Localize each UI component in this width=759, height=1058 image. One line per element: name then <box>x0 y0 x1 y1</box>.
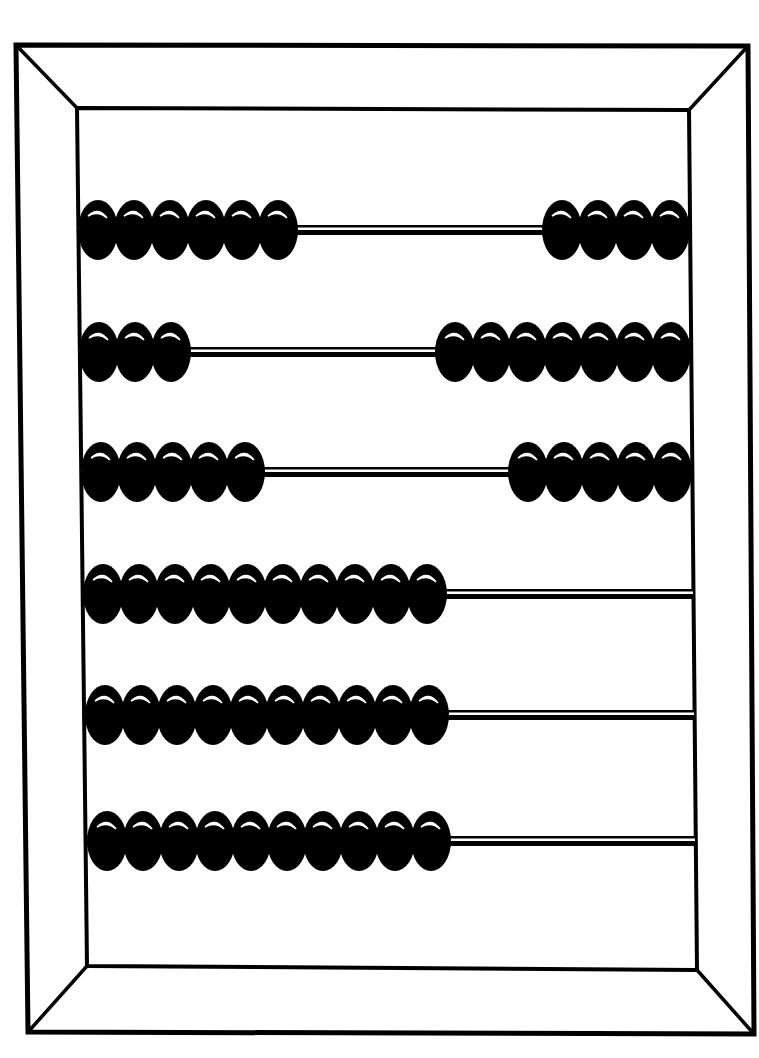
bead <box>153 442 193 502</box>
bead <box>339 811 379 871</box>
bead-left <box>87 811 127 871</box>
frame-corner-bevel <box>28 966 87 1032</box>
bead <box>117 442 157 502</box>
bead-left <box>81 442 121 502</box>
bead <box>225 442 265 502</box>
bead <box>189 442 229 502</box>
bead <box>258 200 298 260</box>
bead <box>267 811 307 871</box>
bead-left <box>375 811 415 871</box>
bead-left <box>114 200 154 260</box>
bead-right <box>650 200 690 260</box>
bead <box>651 322 691 382</box>
bead <box>121 685 161 745</box>
bead-left <box>159 811 199 871</box>
bead-right <box>615 322 655 382</box>
bead-left <box>193 685 233 745</box>
abacus-row-4 <box>83 564 693 624</box>
bead <box>407 564 447 624</box>
bead-left <box>299 564 339 624</box>
bead-left <box>78 200 118 260</box>
bead-left <box>265 685 305 745</box>
bead-left <box>153 442 193 502</box>
bead-left <box>83 564 123 624</box>
bead-right <box>652 442 692 502</box>
bead-right <box>614 200 654 260</box>
bead-left <box>150 200 190 260</box>
bead <box>471 322 511 382</box>
bead <box>615 322 655 382</box>
bead <box>507 322 547 382</box>
bead-right <box>543 322 583 382</box>
bead <box>186 200 226 260</box>
abacus-row-2 <box>79 322 691 382</box>
bead-right <box>542 200 582 260</box>
frame-corner-bevel <box>697 970 754 1034</box>
bead-left <box>151 322 191 382</box>
bead <box>371 564 411 624</box>
bead-left <box>231 811 271 871</box>
bead-left <box>373 685 413 745</box>
abacus-row-3 <box>81 442 692 502</box>
bead-left <box>195 811 235 871</box>
bead <box>652 442 692 502</box>
bead-right <box>580 442 620 502</box>
bead <box>375 811 415 871</box>
bead-left <box>85 685 125 745</box>
bead <box>193 685 233 745</box>
bead <box>119 564 159 624</box>
bead-left <box>186 200 226 260</box>
bead <box>542 200 582 260</box>
bead <box>409 685 449 745</box>
bead-left <box>189 442 229 502</box>
bead-left <box>335 564 375 624</box>
bead-right <box>507 322 547 382</box>
bead-left <box>117 442 157 502</box>
bead <box>650 200 690 260</box>
bead <box>303 811 343 871</box>
bead <box>411 811 451 871</box>
bead-left <box>411 811 451 871</box>
bead-left <box>303 811 343 871</box>
bead-left <box>222 200 262 260</box>
abacus-row-6 <box>87 811 695 871</box>
bead <box>150 200 190 260</box>
bead <box>337 685 377 745</box>
bead <box>435 322 475 382</box>
bead-right <box>651 322 691 382</box>
bead <box>123 811 163 871</box>
bead-left <box>407 564 447 624</box>
bead <box>229 685 269 745</box>
bead <box>79 322 119 382</box>
abacus-row-5 <box>85 685 694 745</box>
bead-right <box>579 322 619 382</box>
bead <box>151 322 191 382</box>
abacus-frame <box>16 45 754 1034</box>
bead <box>227 564 267 624</box>
bead <box>85 685 125 745</box>
bead-left <box>371 564 411 624</box>
bead-left <box>79 322 119 382</box>
bead <box>263 564 303 624</box>
bead <box>222 200 262 260</box>
frame-corner-bevel <box>16 45 77 108</box>
bead-left <box>123 811 163 871</box>
bead-left <box>409 685 449 745</box>
bead-left <box>263 564 303 624</box>
bead <box>544 442 584 502</box>
bead <box>191 564 231 624</box>
bead-left <box>155 564 195 624</box>
bead-left <box>258 200 298 260</box>
bead <box>115 322 155 382</box>
bead <box>81 442 121 502</box>
frame-outer-border <box>16 45 754 1034</box>
bead <box>335 564 375 624</box>
bead-left <box>191 564 231 624</box>
bead <box>508 442 548 502</box>
bead-left <box>229 685 269 745</box>
bead-right <box>578 200 618 260</box>
bead <box>83 564 123 624</box>
bead-left <box>339 811 379 871</box>
bead-left <box>157 685 197 745</box>
bead-right <box>471 322 511 382</box>
